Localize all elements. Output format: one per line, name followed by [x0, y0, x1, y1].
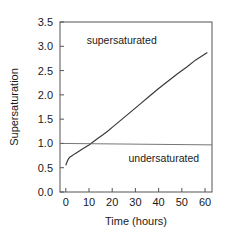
x-tick-label: 0	[63, 196, 69, 208]
x-tick-label: 40	[153, 196, 165, 208]
series-supersaturation	[66, 53, 208, 166]
series-saturation-reference	[60, 143, 212, 144]
y-tick-label: 0.5	[38, 162, 53, 174]
x-tick-label: 20	[106, 196, 118, 208]
data-series-group	[60, 53, 212, 166]
y-tick-label: 0.0	[38, 186, 53, 198]
y-tick-label: 2.5	[38, 65, 53, 77]
y-tick-label: 3.5	[38, 16, 53, 28]
y-tick-label: 2.0	[38, 89, 53, 101]
chart-figure: 0.00.51.01.52.02.53.03.5 0102030405060 s…	[0, 0, 235, 238]
x-axis-ticks: 0102030405060	[63, 188, 211, 208]
x-axis-title: Time (hours)	[105, 215, 167, 227]
x-tick-label: 60	[199, 196, 211, 208]
x-tick-label: 10	[83, 196, 95, 208]
y-tick-label: 3.0	[38, 40, 53, 52]
x-tick-label: 30	[129, 196, 141, 208]
x-tick-label: 50	[176, 196, 188, 208]
annotation-label: supersaturated	[87, 34, 157, 46]
y-axis-title: Supersaturation	[8, 68, 20, 146]
supersaturation-line-chart: 0.00.51.01.52.02.53.03.5 0102030405060 s…	[0, 0, 235, 238]
y-tick-label: 1.0	[38, 137, 53, 149]
annotation-label: undersaturated	[128, 152, 199, 164]
y-tick-label: 1.5	[38, 113, 53, 125]
